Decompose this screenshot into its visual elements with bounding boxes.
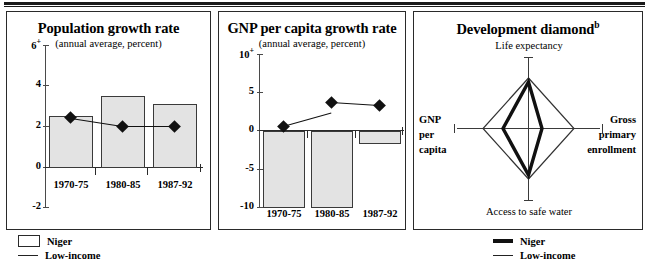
gnp-ytick-label-10: 10+ [221, 46, 254, 60]
legend-row-niger-diamond: Niger [493, 234, 575, 248]
gnp-xtick-2 [355, 131, 356, 138]
panel-gnp-growth-rate: GNP per capita growth rate (annual avera… [218, 11, 406, 230]
gnp-xtick-3 [402, 127, 403, 135]
legend-label-diamond-niger: Niger [520, 236, 545, 247]
gnp-bar-1987-92 [359, 131, 401, 144]
diamond-low-income-shape [483, 78, 574, 179]
diamond-label-gnp-per-capita: GNP per capita [419, 112, 446, 157]
population-cat-1980-85: 1980-85 [94, 179, 152, 190]
gnp-plot-area: 10+ 5 0 -5 -10 1970-75 1980-85 1987-92 [219, 12, 405, 229]
population-cat-1970-75: 1970-75 [42, 179, 100, 190]
gnp-xtick-1 [307, 131, 308, 138]
legend-swatch-bar-icon [18, 235, 40, 247]
population-plot-area: 6+ 4 2 0 -2 1970-75 1980-85 1987-92 [7, 12, 210, 229]
panel-population-growth-rate: Population growth rate (annual average, … [6, 11, 211, 230]
population-ytick-label-0: 0 [13, 160, 41, 171]
population-ytick-label-4: 4 [13, 78, 41, 89]
legend-swatch-thick-icon [493, 239, 513, 243]
bar-charts-legend: Niger Low-income [18, 234, 100, 261]
legend-row-niger-bar: Niger [18, 234, 100, 248]
diamond-plot-area: Life expectancy Access to safe water GNP… [414, 12, 642, 229]
population-bar-1970-75 [49, 116, 93, 168]
population-xtick-1 [95, 168, 96, 175]
population-ytick-mark-4 [43, 85, 49, 86]
population-ytick-label-2: 2 [13, 119, 41, 130]
legend-label-low-income: Low-income [45, 250, 100, 261]
gnp-ytick-label-neg10: -10 [221, 200, 254, 211]
legend-swatch-line-icon [18, 255, 38, 256]
population-xtick-3 [200, 164, 201, 172]
legend-row-low-income-bar: Low-income [18, 248, 100, 261]
gnp-line-seg-1 [283, 113, 331, 127]
legend-label-niger: Niger [47, 236, 72, 247]
population-cat-1987-92: 1987-92 [146, 179, 204, 190]
gnp-bar-1970-75 [263, 131, 305, 208]
population-bar-1987-92 [153, 104, 197, 168]
diamond-legend: Niger Low-income [493, 234, 575, 261]
diamond-label-gnp-line3: capita [419, 142, 446, 157]
gnp-ytick-mark-5 [257, 92, 263, 93]
legend-row-low-income-diamond: Low-income [493, 248, 575, 261]
top-rule-thick [4, 2, 645, 5]
population-xtick-2 [147, 168, 148, 175]
diamond-label-gross-line2: primary [587, 127, 636, 142]
gnp-ytick-label-0: 0 [221, 123, 254, 134]
gnp-ytick-mark-10 [257, 54, 263, 55]
top-rule-thin [4, 6, 645, 7]
population-ytick-label-6: 6+ [13, 37, 41, 51]
diamond-label-gnp-line1: GNP [419, 112, 446, 127]
legend-label-diamond-low-income: Low-income [520, 250, 575, 261]
gnp-marker-1987-92 [373, 99, 386, 112]
gnp-marker-1980-85 [325, 96, 338, 109]
diamond-label-gross-primary-enrollment: Gross primary enrollment [587, 112, 636, 157]
legend-swatch-thin-icon [493, 255, 513, 256]
diamond-label-life-expectancy: Life expectancy [449, 40, 609, 51]
gnp-line-seg-2 [331, 102, 379, 106]
gnp-ytick-label-neg5: -5 [221, 162, 254, 173]
gnp-cat-1987-92: 1987-92 [351, 208, 409, 219]
population-ytick-label-neg2: -2 [13, 200, 41, 211]
diamond-label-access-safe-water: Access to safe water [444, 206, 614, 217]
diamond-label-gnp-line2: per [419, 127, 446, 142]
panel-development-diamond: Development diamondb Life expectancy Acc… [413, 11, 643, 230]
gnp-ytick-label-5: 5 [221, 85, 254, 96]
diamond-niger-shape [503, 82, 542, 175]
population-ytick-mark-6 [43, 45, 49, 46]
diamond-label-gross-line3: enrollment [587, 142, 636, 157]
diamond-label-gross-line1: Gross [587, 112, 636, 127]
gnp-bar-1980-85 [311, 131, 353, 208]
population-ytick-mark-neg2 [43, 207, 49, 208]
